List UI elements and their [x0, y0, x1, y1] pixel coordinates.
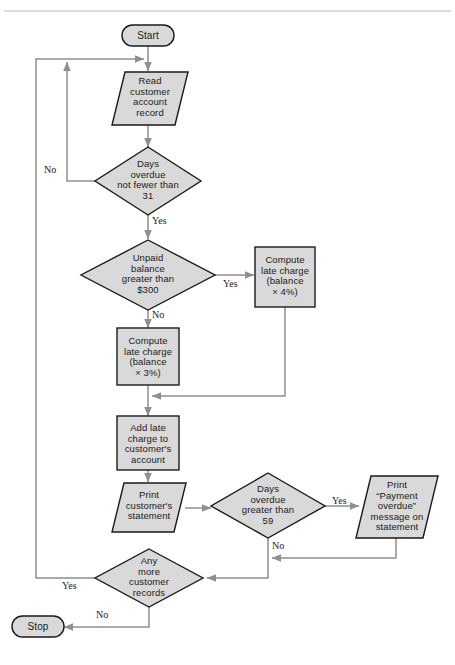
edge-label-unpaid-yes: Yes	[223, 278, 238, 289]
edge-label-days31-no: No	[44, 164, 56, 175]
node-any-more	[95, 549, 203, 607]
edge-label-anymore-yes: Yes	[62, 580, 77, 591]
node-add-charge	[117, 416, 179, 470]
connector-days59-no	[207, 538, 268, 578]
node-days-overdue-31	[95, 147, 201, 215]
edge-label-days59-no: No	[272, 540, 284, 551]
connector-overdue-merge	[272, 538, 396, 558]
connector-days31-no-loop	[67, 62, 95, 181]
edge-label-days59-yes: Yes	[332, 495, 347, 506]
node-print-overdue	[356, 476, 438, 538]
node-print-statement	[112, 483, 186, 532]
edge-label-anymore-no: No	[96, 609, 108, 620]
flowchart-svg	[0, 0, 455, 665]
edge-label-days31-yes: Yes	[152, 215, 167, 226]
node-read-record	[112, 72, 188, 125]
node-start	[122, 25, 174, 46]
node-late-charge-3	[117, 328, 179, 385]
flowchart-canvas: Start Read customer account record Days …	[0, 0, 455, 665]
node-days-overdue-59	[211, 473, 325, 538]
edge-label-unpaid-no: No	[152, 309, 164, 320]
node-stop	[12, 616, 64, 637]
node-unpaid-balance	[81, 240, 215, 310]
node-late-charge-4	[255, 247, 315, 307]
